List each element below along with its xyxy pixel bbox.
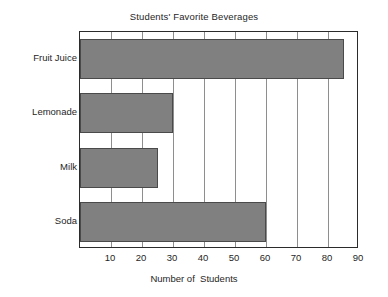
bar[interactable] bbox=[80, 93, 173, 133]
bar[interactable] bbox=[80, 148, 158, 188]
chart-title: Students' Favorite Beverages bbox=[0, 11, 388, 22]
x-axis-title: Number of Students bbox=[0, 273, 388, 284]
bar[interactable] bbox=[80, 39, 344, 79]
category-label: Soda bbox=[0, 215, 77, 226]
bar[interactable] bbox=[80, 202, 266, 242]
category-label: Milk bbox=[0, 161, 77, 172]
category-label: Fruit Juice bbox=[0, 52, 77, 63]
x-tick-label: 90 bbox=[338, 252, 378, 263]
category-label: Lemonade bbox=[0, 106, 77, 117]
bars-layer bbox=[80, 32, 357, 247]
plot-area bbox=[79, 31, 358, 248]
bar-chart: Students' Favorite Beverages Fruit Juice… bbox=[0, 0, 388, 297]
